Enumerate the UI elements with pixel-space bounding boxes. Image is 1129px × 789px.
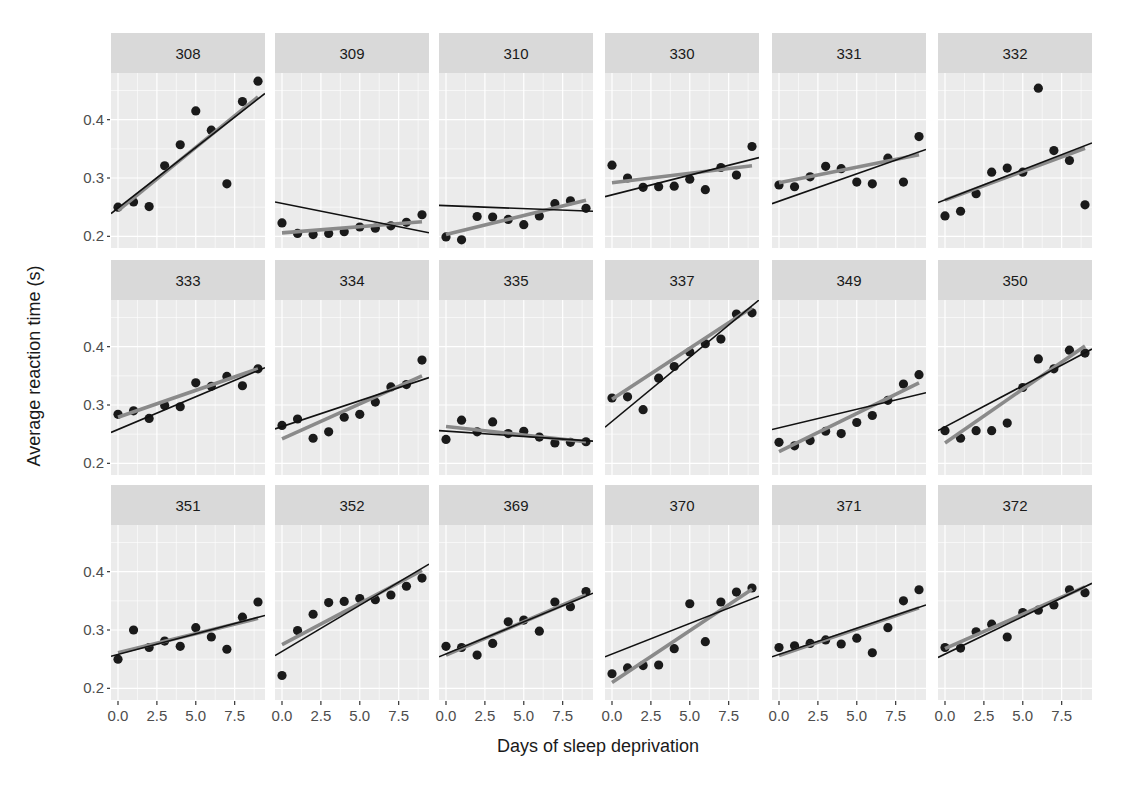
data-point <box>837 639 846 648</box>
data-point <box>277 671 286 680</box>
panel-background <box>938 300 1092 475</box>
data-point <box>129 625 138 634</box>
data-point <box>253 597 262 606</box>
data-point <box>222 645 231 654</box>
panel-background <box>605 73 759 248</box>
panel-background <box>111 525 265 700</box>
panel-background <box>275 525 429 700</box>
data-point <box>987 168 996 177</box>
data-point <box>654 660 663 669</box>
panel-background <box>439 525 593 700</box>
data-point <box>145 202 154 211</box>
data-point <box>716 597 725 606</box>
facet-panel-335: 335 <box>439 260 593 475</box>
data-point <box>324 598 333 607</box>
data-point <box>899 177 908 186</box>
x-tick-label: 5.0 <box>846 707 867 724</box>
panel-background <box>772 73 926 248</box>
facet-panel-337: 337 <box>605 260 759 475</box>
data-point <box>340 597 349 606</box>
facet-panel-309: 309 <box>275 33 429 248</box>
data-point <box>972 426 981 435</box>
data-point <box>253 77 262 86</box>
data-point <box>207 632 216 641</box>
x-tick-label: 7.5 <box>885 707 906 724</box>
y-tick-label: 0.2 <box>83 454 104 471</box>
data-point <box>441 435 450 444</box>
x-tick-label: 0.0 <box>769 707 790 724</box>
data-point <box>607 669 616 678</box>
x-tick-label: 2.5 <box>146 707 167 724</box>
data-point <box>883 623 892 632</box>
data-point <box>176 140 185 149</box>
facet-strip-label: 350 <box>1002 272 1027 289</box>
data-point <box>852 418 861 427</box>
y-tick-label: 0.4 <box>83 563 104 580</box>
facet-strip-label: 331 <box>836 45 861 62</box>
data-point <box>607 161 616 170</box>
data-point <box>222 179 231 188</box>
data-point <box>623 392 632 401</box>
x-tick-label: 2.5 <box>640 707 661 724</box>
facet-strip-label: 309 <box>339 45 364 62</box>
facet-strip-label: 351 <box>175 497 200 514</box>
facet-strip-label: 337 <box>669 272 694 289</box>
x-tick-label: 5.0 <box>185 707 206 724</box>
y-tick-label: 0.2 <box>83 679 104 696</box>
data-point <box>277 218 286 227</box>
data-point <box>987 426 996 435</box>
data-point <box>441 642 450 651</box>
data-point <box>837 429 846 438</box>
facet-strip-label: 349 <box>836 272 861 289</box>
data-point <box>191 623 200 632</box>
facet-strip-label: 371 <box>836 497 861 514</box>
data-point <box>670 182 679 191</box>
data-point <box>488 639 497 648</box>
data-point <box>1080 200 1089 209</box>
facet-panel-331: 331 <box>772 33 926 248</box>
data-point <box>417 355 426 364</box>
facet-strip-label: 369 <box>503 497 528 514</box>
x-tick-label: 5.0 <box>349 707 370 724</box>
panel-background <box>439 300 593 475</box>
data-point <box>747 142 756 151</box>
y-tick-label: 0.4 <box>83 111 104 128</box>
facet-panel-308: 308 <box>111 33 265 248</box>
data-point <box>473 212 482 221</box>
facet-panel-330: 330 <box>605 33 759 248</box>
data-point <box>1034 354 1043 363</box>
data-point <box>868 648 877 657</box>
y-axis-title: Average reaction time (s) <box>24 266 44 467</box>
data-point <box>457 416 466 425</box>
x-tick-label: 2.5 <box>973 707 994 724</box>
facet-panel-351: 351 <box>111 485 265 700</box>
data-point <box>956 207 965 216</box>
data-point <box>402 582 411 591</box>
facet-panel-349: 349 <box>772 260 926 475</box>
x-tick-label: 0.0 <box>602 707 623 724</box>
x-axis-title: Days of sleep deprivation <box>497 736 699 756</box>
data-point <box>868 179 877 188</box>
data-point <box>914 132 923 141</box>
data-point <box>654 374 663 383</box>
x-axes: 0.02.55.07.50.02.55.07.50.02.55.07.50.02… <box>108 701 1073 724</box>
data-point <box>324 427 333 436</box>
x-tick-label: 7.5 <box>1051 707 1072 724</box>
data-point <box>176 642 185 651</box>
facet-strip-label: 333 <box>175 272 200 289</box>
data-point <box>1049 146 1058 155</box>
x-tick-label: 0.0 <box>108 707 129 724</box>
data-point <box>1003 632 1012 641</box>
data-point <box>852 177 861 186</box>
data-point <box>732 170 741 179</box>
x-tick-label: 7.5 <box>552 707 573 724</box>
data-point <box>821 162 830 171</box>
x-tick-label: 2.5 <box>474 707 495 724</box>
data-point <box>716 334 725 343</box>
x-tick-label: 7.5 <box>718 707 739 724</box>
facet-panel-332: 332 <box>938 33 1092 248</box>
data-point <box>457 235 466 244</box>
data-point <box>355 410 364 419</box>
y-tick-label: 0.3 <box>83 621 104 638</box>
data-point <box>386 590 395 599</box>
